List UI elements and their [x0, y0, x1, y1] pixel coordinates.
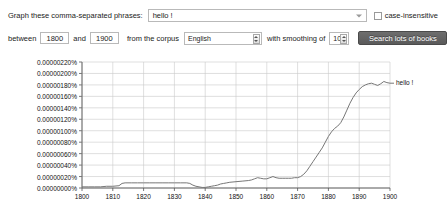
options-row: between 1800 and 1900 from the corpus En…: [8, 31, 447, 45]
spinner-down-icon: [254, 40, 258, 42]
corpus-label: from the corpus: [127, 34, 179, 43]
spinner-up-icon: [342, 36, 346, 38]
spinner-up-icon: [254, 36, 258, 38]
corpus-select-value: English: [185, 35, 211, 42]
ngram-chart: 0.00000220%0.00000200%0.00000180%0.00000…: [0, 52, 430, 212]
x-axis-tick-label: 1830: [167, 193, 181, 200]
x-axis-tick-label: 1800: [75, 193, 89, 200]
x-axis-tick-label: 1860: [260, 193, 274, 200]
year-start-input[interactable]: 1800: [40, 32, 69, 44]
corpus-select[interactable]: English: [184, 32, 262, 45]
x-axis-tick-label: 1820: [136, 193, 150, 200]
between-label: between: [8, 34, 36, 43]
x-axis-tick-label: 1880: [321, 193, 335, 200]
phrases-row: Graph these comma-separated phrases: hel…: [8, 9, 438, 22]
year-end-input[interactable]: 1900: [90, 32, 119, 44]
case-insensitive-control[interactable]: case-insensitive: [374, 11, 438, 20]
x-axis-tick-label: 1850: [229, 193, 243, 200]
x-axis-tick-label: 1900: [383, 193, 397, 200]
case-insensitive-label: case-insensitive: [385, 11, 438, 20]
series-legend-label: hello !: [396, 79, 413, 86]
x-axis-tick-label: 1840: [198, 193, 212, 200]
chevron-down-icon[interactable]: [356, 14, 362, 17]
query-panel: Graph these comma-separated phrases: hel…: [0, 0, 430, 52]
phrases-input-value: hello !: [149, 11, 173, 20]
smoothing-select[interactable]: 10: [329, 32, 349, 45]
x-axis-tick-label: 1810: [106, 193, 120, 200]
smoothing-label: with smoothing of: [267, 34, 325, 43]
phrases-input[interactable]: hello !: [148, 9, 367, 22]
x-axis-tick-label: 1870: [290, 193, 304, 200]
search-button[interactable]: Search lots of books: [358, 31, 447, 45]
smoothing-spinner-icon[interactable]: [340, 34, 347, 44]
phrases-label: Graph these comma-separated phrases:: [8, 11, 143, 20]
x-axis-tick-label: 1890: [352, 193, 366, 200]
corpus-spinner-icon[interactable]: [253, 34, 260, 44]
x-axis-labels: 1800181018201830184018501860187018801890…: [0, 52, 430, 212]
case-insensitive-checkbox[interactable]: [374, 12, 382, 20]
spinner-down-icon: [342, 40, 346, 42]
and-label: and: [73, 34, 86, 43]
